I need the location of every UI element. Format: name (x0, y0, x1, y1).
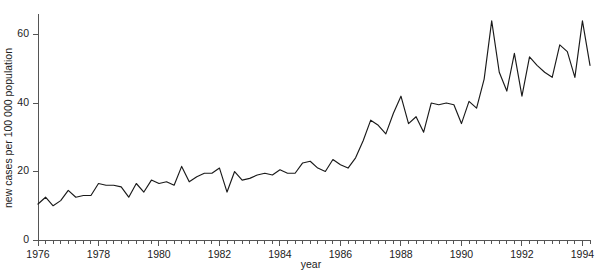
y-tick-label-20: 20 (17, 164, 29, 176)
chart-container: 0204060 19761978198019821984198619881990… (0, 0, 596, 273)
y-axis-tick-labels: 0204060 (17, 27, 29, 244)
y-axis: 0204060 (17, 14, 38, 245)
x-tick-label-1984: 1984 (268, 248, 292, 260)
y-axis-title: new cases per 100 000 population (2, 48, 14, 208)
x-tick-label-1976: 1976 (26, 248, 50, 260)
y-tick-label-60: 60 (17, 27, 29, 39)
x-tick-label-1988: 1988 (389, 248, 413, 260)
y-tick-label-40: 40 (17, 96, 29, 108)
y-axis-ticks (33, 35, 38, 240)
data-line-new-cases (38, 21, 590, 206)
x-tick-label-1990: 1990 (450, 248, 474, 260)
y-tick-label-0: 0 (23, 233, 29, 245)
data-series-group (38, 21, 590, 206)
x-axis: 1976197819801982198419861988199019921994 (26, 240, 594, 260)
x-tick-label-1994: 1994 (571, 248, 595, 260)
x-tick-label-1978: 1978 (87, 248, 111, 260)
x-tick-label-1982: 1982 (208, 248, 232, 260)
x-tick-label-1992: 1992 (510, 248, 534, 260)
x-axis-title: year (301, 258, 322, 270)
x-tick-label-1980: 1980 (147, 248, 171, 260)
x-tick-label-1986: 1986 (329, 248, 353, 260)
line-chart: 0204060 19761978198019821984198619881990… (0, 0, 596, 273)
x-axis-minor-ticks (38, 240, 590, 244)
